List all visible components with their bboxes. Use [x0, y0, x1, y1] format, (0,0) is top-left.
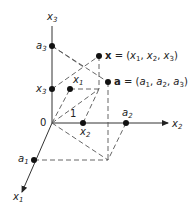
point-a1 [31, 157, 37, 163]
a-vector-label: a = (a1, a2, a3) [114, 76, 188, 89]
x2-axis-label: x2 [171, 118, 183, 131]
unit-label: 1 [70, 108, 76, 119]
point-a3 [49, 43, 55, 49]
point-x3 [49, 86, 55, 92]
point-x-vector [96, 53, 102, 59]
point-a2 [123, 120, 129, 126]
x3-axis-label: x3 [46, 11, 57, 24]
coordinate-diagram: x3 x2 x1 a3 x3 x1 x2 a2 a1 0 1 x = (x1, … [0, 0, 190, 205]
a2-label: a2 [122, 107, 133, 120]
point-x1 [67, 86, 73, 92]
point-a-vector [105, 79, 111, 85]
construction-lines [34, 46, 126, 160]
x2-tick-label: x2 [79, 126, 91, 139]
x1-axis-label: x1 [12, 191, 23, 204]
x1-tick-label: x1 [72, 74, 83, 87]
a3-label: a3 [36, 40, 47, 53]
x-vector-label: x = (x1, x2, x3) [105, 50, 178, 63]
origin-label: 0 [40, 117, 46, 128]
a1-label: a1 [18, 153, 29, 166]
x3-tick-label: x3 [35, 83, 46, 96]
